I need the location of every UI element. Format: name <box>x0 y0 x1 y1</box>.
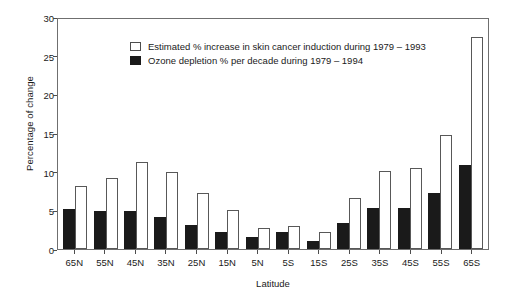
bar-ozone-depletion <box>428 193 440 249</box>
bar-ozone-depletion <box>398 208 410 249</box>
x-tick: 35S <box>367 250 393 272</box>
bar-ozone-depletion <box>185 225 197 249</box>
chart-legend: Estimated % increase in skin cancer indu… <box>130 41 426 66</box>
bar-skin-cancer <box>379 171 391 249</box>
bar-ozone-depletion <box>154 217 166 249</box>
bar-ozone-depletion <box>94 211 106 249</box>
bar-skin-cancer <box>349 198 361 249</box>
x-tick-mark <box>349 250 350 254</box>
x-tick-label: 25S <box>341 257 358 268</box>
bar-skin-cancer <box>197 193 209 249</box>
bar-skin-cancer <box>288 226 300 249</box>
legend-item-skin-cancer: Estimated % increase in skin cancer indu… <box>130 41 426 52</box>
x-tick-label: 25N <box>188 257 205 268</box>
x-axis-label: Latitude <box>57 278 489 289</box>
x-axis-tick-labels: 65N55N45N35N25N15N5N5S15S25S35S45S55S65S <box>57 250 489 272</box>
bar-skin-cancer <box>136 162 148 249</box>
x-tick-mark <box>227 250 228 254</box>
x-tick-mark <box>165 250 166 254</box>
legend-swatch-skin-cancer <box>130 42 141 51</box>
x-tick: 5S <box>275 250 301 272</box>
bar-group <box>459 19 483 249</box>
x-tick: 45S <box>397 250 423 272</box>
bar-skin-cancer <box>440 135 452 249</box>
x-tick: 15N <box>214 250 240 272</box>
x-tick-mark <box>441 250 442 254</box>
x-tick: 45N <box>122 250 148 272</box>
legend-label-ozone-depletion: Ozone depletion % per decade during 1979… <box>148 55 363 66</box>
bar-ozone-depletion <box>337 223 349 249</box>
x-tick-mark <box>410 250 411 254</box>
x-tick: 5N <box>245 250 271 272</box>
x-tick: 25N <box>184 250 210 272</box>
plot-area: Estimated % increase in skin cancer indu… <box>57 18 489 250</box>
legend-swatch-ozone-depletion <box>130 56 141 65</box>
bar-skin-cancer <box>319 232 331 249</box>
x-tick: 15S <box>306 250 332 272</box>
bar-ozone-depletion <box>307 241 319 249</box>
x-tick: 55N <box>92 250 118 272</box>
bar-skin-cancer <box>166 172 178 249</box>
bar-skin-cancer <box>471 37 483 249</box>
x-tick-label: 5S <box>282 257 294 268</box>
bar-ozone-depletion <box>246 237 258 249</box>
legend-label-skin-cancer: Estimated % increase in skin cancer indu… <box>148 41 426 52</box>
x-tick-mark <box>196 250 197 254</box>
bar-ozone-depletion <box>63 209 75 249</box>
bar-ozone-depletion <box>459 165 471 249</box>
x-tick-mark <box>379 250 380 254</box>
x-tick-label: 55N <box>96 257 113 268</box>
x-tick: 65S <box>459 250 485 272</box>
legend-item-ozone-depletion: Ozone depletion % per decade during 1979… <box>130 55 426 66</box>
x-tick-label: 45S <box>402 257 419 268</box>
x-tick-label: 55S <box>433 257 450 268</box>
bar-skin-cancer <box>106 178 118 249</box>
x-tick: 25S <box>336 250 362 272</box>
bar-ozone-depletion <box>276 232 288 249</box>
x-tick-label: 5N <box>252 257 264 268</box>
x-tick-label: 65N <box>66 257 83 268</box>
x-tick-label: 35N <box>157 257 174 268</box>
bar-skin-cancer <box>227 210 239 249</box>
x-tick-label: 15S <box>310 257 327 268</box>
bar-ozone-depletion <box>215 232 227 249</box>
y-axis-tick-labels: 051015202530 <box>20 0 54 304</box>
x-tick-label: 15N <box>218 257 235 268</box>
x-tick-label: 45N <box>127 257 144 268</box>
x-tick-mark <box>135 250 136 254</box>
x-tick-mark <box>288 250 289 254</box>
chart-figure: Percentage of change 051015202530 Estima… <box>0 0 510 304</box>
x-tick-label: 35S <box>371 257 388 268</box>
bar-skin-cancer <box>258 228 270 249</box>
x-tick: 55S <box>428 250 454 272</box>
bar-group <box>428 19 452 249</box>
bar-ozone-depletion <box>124 211 136 249</box>
x-tick: 65N <box>61 250 87 272</box>
x-tick-mark <box>104 250 105 254</box>
x-tick-label: 65S <box>463 257 480 268</box>
x-tick-mark <box>74 250 75 254</box>
x-tick-mark <box>318 250 319 254</box>
x-tick-mark <box>471 250 472 254</box>
bar-ozone-depletion <box>367 208 379 249</box>
x-tick-mark <box>257 250 258 254</box>
bar-group <box>94 19 118 249</box>
x-tick: 35N <box>153 250 179 272</box>
bar-group <box>63 19 87 249</box>
bar-skin-cancer <box>410 168 422 249</box>
bar-skin-cancer <box>75 186 87 249</box>
